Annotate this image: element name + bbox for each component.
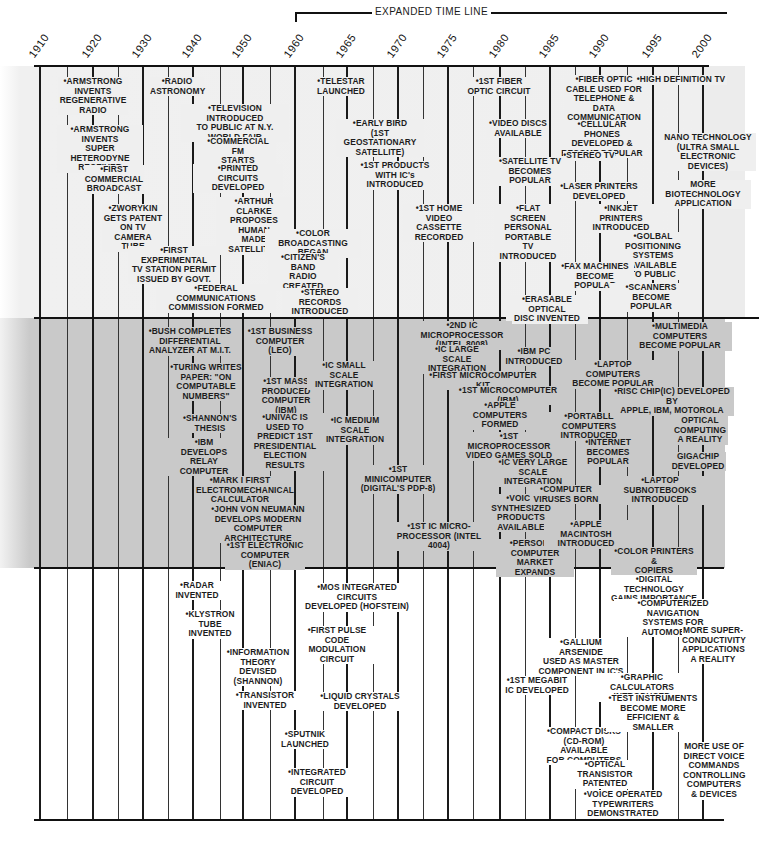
minor-gridline	[67, 66, 68, 820]
timeline-event: •1ST MINICOMPUTER (DIGITAL'S PDP-8)	[357, 465, 439, 494]
timeline-event: •TURING WRITES PAPER: "ON COMPUTABLE NUM…	[170, 363, 242, 401]
timeline-event: •RADIO ASTRONOMY	[150, 77, 204, 96]
timeline-event: •HIGH DEFINITION TV	[635, 75, 727, 85]
timeline-event: •SATELLITE TV BECOMES POPULAR	[490, 157, 570, 186]
timeline-event: •MOS INTEGRATED CIRCUITS DEVELOPED (HOFS…	[300, 583, 414, 612]
timeline-event: •MULTIMEDIA COMPUTERS BECOME POPULAR	[628, 322, 732, 351]
year-label: 1980	[486, 31, 511, 60]
timeline-event: •ARMSTRONG INVENTS REGENERATIVE RADIO	[58, 77, 128, 115]
year-label: 1930	[129, 31, 154, 60]
timeline-event: •VIDEO DISCS AVAILABLE	[487, 119, 549, 138]
computing-band-fade	[0, 318, 30, 568]
timeline-event: •KLYSTRON TUBE INVENTED	[182, 610, 238, 639]
timeline-event: •IBM PC INTRODUCED	[505, 347, 563, 366]
timeline-event: GIGACHIP DEVELOPED	[670, 452, 726, 471]
timeline-event: •FIBER OPTIC CABLE USED FOR TELEPHONE & …	[564, 75, 644, 123]
timeline-event: •JOHN VON NEUMANN DEVELOPS MODERN COMPUT…	[206, 505, 310, 543]
timeline-event: •STEREO RECORDS INTRODUCED	[282, 288, 358, 317]
timeline-event: •ZWORYKIN GETS PATENT ON TV CAMERA TUBE	[102, 204, 164, 252]
timeline-event: •INTERNET BECOMES POPULAR	[580, 438, 636, 467]
year-label: 1975	[434, 31, 459, 60]
timeline-event: MORE BIOTECHNOLOGY APPLICATION	[655, 180, 751, 209]
timeline-event: •1ST BUSINESS COMPUTER (LEO)	[246, 327, 314, 356]
timeline-event: •TEST INSTRUMENTS BECOME MORE EFFICIENT …	[606, 694, 700, 732]
timeline-event: •1ST HOME VIDEO CASSETTE RECORDED	[403, 204, 475, 242]
band-divider-upper	[34, 317, 759, 319]
timeline-event: •TELESTAR LAUNCHED	[314, 77, 368, 96]
year-gridline	[39, 66, 41, 820]
timeline-event: •PRINTED CIRCUITS DEVELOPED	[193, 164, 283, 193]
top-axis-line	[34, 65, 709, 67]
year-label: 1950	[229, 31, 254, 60]
timeline-event: •LAPTOP SUBNOTEBOOKS INTRODUCED	[608, 476, 712, 505]
timeline-event: MORE SUPER- CONDUCTIVITY APPLICATIONS A …	[682, 626, 744, 664]
timeline-event: OPTICAL COMPUTING A REALITY	[672, 416, 728, 445]
bottom-axis-line	[34, 819, 724, 821]
timeline-event: •MARK I FIRST ELECTROMECHANICAL CALCULAT…	[196, 476, 284, 505]
timeline-event: •COMMERCIAL FM STARTS	[200, 137, 276, 166]
timeline-event: •FEDERAL COMMUNICATIONS COMMISSION FORME…	[156, 284, 276, 313]
timeline-event: •RADAR INVENTED	[172, 581, 222, 600]
timeline-event: •UNIVAC IS USED TO PREDICT 1ST PRESIDENT…	[245, 413, 325, 471]
timeline-event: •VOICE OPERATED TYPEWRITERS DEMONSTRATED	[583, 790, 663, 819]
year-label: 1965	[333, 31, 358, 60]
timeline-event: •SHANNON'S THESIS	[182, 414, 238, 433]
timeline-event: •OPTICAL TRANSISTOR PATENTED	[558, 760, 652, 789]
timeline-event: •RISC CHIP(IC) DEVELOPED BY APPLE, IBM, …	[610, 387, 734, 416]
timeline-event: •FIRST COMMERCIAL BROADCAST	[84, 165, 144, 194]
year-label: 1920	[79, 31, 104, 60]
timeline-event: •IC VERY LARGE SCALE INTEGRATION	[497, 458, 569, 487]
timeline-event: •1ST ELECTRONIC COMPUTER (ENIAC)	[225, 541, 305, 570]
timeline-event: •IBM DEVELOPS RELAY COMPUTER	[166, 438, 242, 476]
year-label: 1910	[26, 31, 51, 60]
timeline-event: •GALLIUM ARSENIDE USED AS MASTER COMPONE…	[538, 638, 624, 676]
timeline-event: NANO TECHNOLOGY (ULTRA SMALL ELECTRONIC …	[660, 133, 756, 171]
timeline-event: •CITIZEN'S BAND RADIO CREATED	[268, 253, 338, 291]
year-label: 1990	[586, 31, 611, 60]
year-label: 1940	[179, 31, 204, 60]
timeline-event: •LASER PRINTERS DEVELOPED	[560, 182, 638, 201]
timeline-event: •EARLY BIRD (1ST GEOSTATIONARY SATELLITE…	[336, 119, 424, 157]
timeline-event: •ERASABLE OPTICAL DISC INVENTED	[506, 295, 588, 324]
timeline-event: •APPLE COMPUTERS FORMED	[460, 401, 540, 430]
timeline-event: •COMPUTER VIRUSES BORN	[530, 485, 602, 504]
timeline-event: •IC SMALL SCALE INTEGRATION	[307, 361, 381, 390]
timeline-event: •BUSH COMPLETES DIFFERENTIAL ANALYZER AT…	[148, 327, 232, 356]
timeline-event: •SCANNERS BECOME POPULAR	[610, 283, 692, 312]
timeline-event: •FLAT SCREEN PERSONAL PORTABLE TV INTROD…	[495, 204, 561, 262]
timeline-event: •APPLE MACINTOSH INTRODUCED	[544, 520, 628, 549]
timeline-event: •INTEGRATED CIRCUIT DEVELOPED	[286, 768, 348, 797]
timeline-event: •STEREO TV	[563, 151, 615, 161]
expanded-timeline-bracket	[295, 12, 727, 22]
timeline-event: •INFORMATION THEORY DEVISED (SHANNON)	[222, 648, 294, 686]
year-label: 2000	[689, 31, 714, 60]
expanded-timeline-label: EXPANDED TIME LINE	[372, 6, 491, 17]
timeline-event: •LAPTOP COMPUTERS BECOME POPULAR	[570, 360, 656, 389]
timeline-event: •TRANSISTOR INVENTED	[234, 691, 296, 710]
timeline-event: •1ST PRODUCTS WITH IC's INTRODUCED	[360, 161, 430, 190]
year-label: 1995	[639, 31, 664, 60]
timeline-event: •1ST MEGABIT IC DEVELOPED	[505, 676, 569, 695]
minor-gridline	[575, 66, 576, 820]
year-gridline	[447, 66, 449, 820]
timeline-event: •INKJET PRINTERS INTRODUCED	[582, 204, 660, 233]
timeline-event: MORE USE OF DIRECT VOICE COMMANDS CONTRO…	[683, 742, 745, 800]
timeline-event: •1ST IC MICRO- PROCESSOR (INTEL 4004)	[389, 522, 489, 551]
year-label: 1985	[536, 31, 561, 60]
timeline-event: •LIQUID CRYSTALS DEVELOPED	[320, 692, 400, 711]
timeline-event: •IC MEDIUM SCALE INTEGRATION	[315, 416, 395, 445]
timeline-event: •SPUTNIK LAUNCHED	[278, 730, 332, 749]
timeline-event: •FIRST EXPERIMENTAL TV STATION PERMIT IS…	[128, 246, 220, 284]
year-label: 1960	[281, 31, 306, 60]
timeline-event: •FIRST PULSE CODE MODULATION CIRCUIT	[298, 626, 376, 664]
year-label: 1970	[384, 31, 409, 60]
timeline-event: •1ST FIBER OPTIC CIRCUIT	[466, 77, 532, 96]
